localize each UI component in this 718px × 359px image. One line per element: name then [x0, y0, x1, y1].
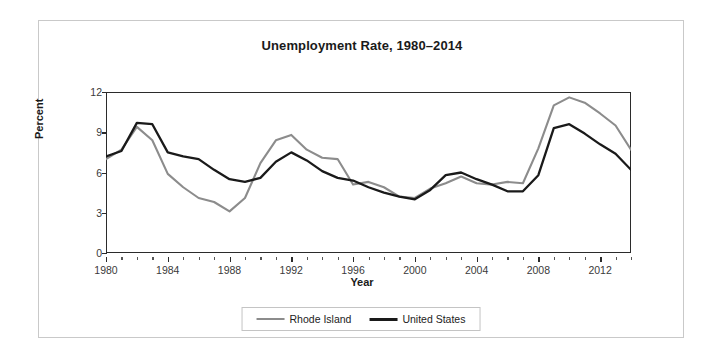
x-tick-mark-major	[415, 257, 416, 262]
x-tick-mark-minor	[322, 257, 323, 260]
x-tick-label: 2000	[403, 264, 426, 276]
series-lines	[106, 92, 631, 253]
legend-label: United States	[402, 313, 465, 325]
x-tick-mark-minor	[307, 257, 308, 260]
x-tick-label: 1996	[341, 264, 364, 276]
y-tick-label: 9	[72, 126, 102, 138]
x-tick-mark-minor	[369, 257, 370, 260]
x-tick-label: 1980	[94, 264, 117, 276]
legend-swatch	[257, 318, 285, 320]
chart-legend: Rhode IslandUnited States	[242, 307, 481, 331]
x-tick-mark-minor	[554, 257, 555, 260]
y-axis-title: Percent	[33, 99, 45, 139]
x-tick-mark-minor	[245, 257, 246, 260]
x-tick-mark-minor	[152, 257, 153, 260]
x-tick-mark-minor	[199, 257, 200, 260]
x-tick-mark-minor	[338, 257, 339, 260]
x-tick-mark-minor	[446, 257, 447, 260]
x-tick-mark-minor	[430, 257, 431, 260]
plot-area	[106, 92, 631, 253]
x-tick-label: 1988	[218, 264, 241, 276]
x-tick-mark-major	[106, 257, 107, 262]
chart-title: Unemployment Rate, 1980–2014	[39, 38, 685, 53]
legend-swatch	[369, 318, 397, 321]
x-tick-mark-minor	[585, 257, 586, 260]
x-tick-mark-minor	[214, 257, 215, 260]
y-tick-label: 6	[72, 167, 102, 179]
y-tick-label: 3	[72, 207, 102, 219]
x-tick-mark-major	[168, 257, 169, 262]
y-tick-label: 12	[72, 86, 102, 98]
y-tick-mark	[102, 253, 107, 254]
legend-item[interactable]: United States	[369, 313, 465, 325]
x-tick-mark-minor	[183, 257, 184, 260]
x-tick-mark-minor	[137, 257, 138, 260]
figure-panel: Unemployment Rate, 1980–2014 Percent 036…	[38, 20, 684, 338]
x-tick-label: 1984	[156, 264, 179, 276]
x-tick-mark-major	[291, 257, 292, 262]
y-axis-tick-labels: 036912	[72, 83, 102, 262]
legend-item[interactable]: Rhode Island	[257, 313, 352, 325]
x-tick-mark-minor	[260, 257, 261, 260]
x-tick-mark-minor	[492, 257, 493, 260]
x-tick-mark-minor	[399, 257, 400, 260]
x-tick-mark-minor	[523, 257, 524, 260]
x-tick-mark-minor	[384, 257, 385, 260]
x-tick-mark-minor	[121, 257, 122, 260]
x-tick-mark-major	[230, 257, 231, 262]
x-tick-mark-minor	[631, 257, 632, 260]
x-axis-tick-labels: 198019841988199219962000200420082012	[106, 257, 631, 273]
x-axis-title: Year	[39, 276, 685, 288]
x-tick-mark-minor	[507, 257, 508, 260]
x-tick-label: 2008	[527, 264, 550, 276]
legend-label: Rhode Island	[290, 313, 352, 325]
x-tick-mark-minor	[461, 257, 462, 260]
x-tick-label: 1992	[280, 264, 303, 276]
x-tick-mark-major	[353, 257, 354, 262]
x-tick-mark-minor	[276, 257, 277, 260]
x-tick-label: 2012	[588, 264, 611, 276]
y-tick-label: 0	[72, 247, 102, 259]
x-tick-mark-minor	[569, 257, 570, 260]
x-tick-mark-major	[477, 257, 478, 262]
x-tick-mark-minor	[616, 257, 617, 260]
x-tick-mark-major	[600, 257, 601, 262]
x-tick-mark-major	[538, 257, 539, 262]
series-line-rhode-island	[106, 97, 631, 211]
x-tick-label: 2004	[465, 264, 488, 276]
